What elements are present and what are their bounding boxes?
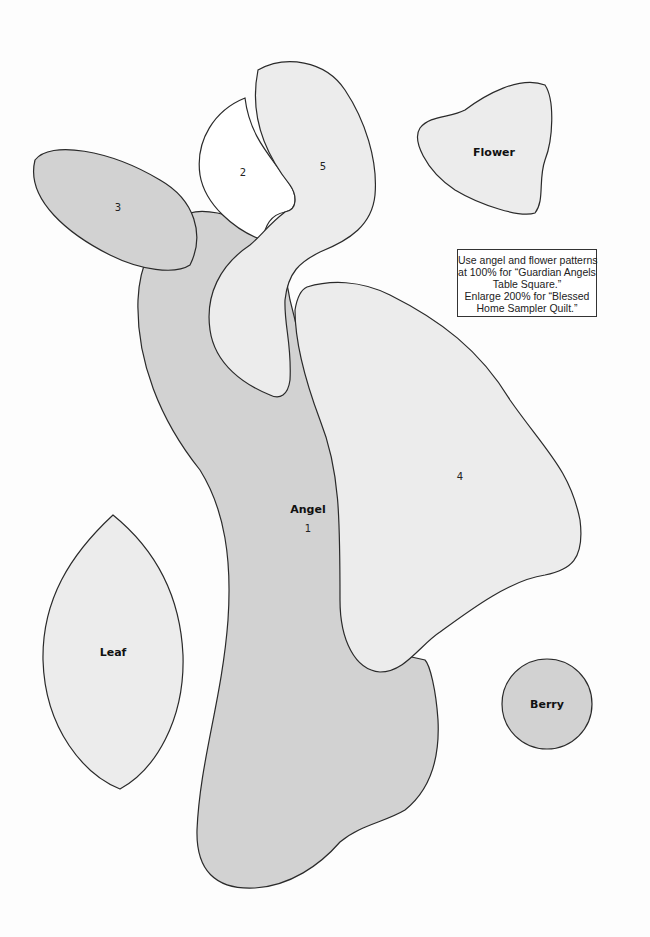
note-line: Table Square.”: [458, 278, 596, 290]
note-line: Enlarge 200% for “Blessed: [458, 290, 596, 302]
pattern-sheet: Angel 1 2 3 4 5 Flower Leaf Berry: [0, 0, 650, 937]
hair-number: 5: [320, 161, 326, 172]
flower-label: Flower: [473, 146, 515, 159]
note-line: Use angel and flower patterns: [458, 254, 596, 266]
wing-left-number: 3: [115, 202, 121, 213]
angel-number: 1: [305, 523, 311, 534]
wing-right-number: 4: [457, 471, 463, 482]
angel-label: Angel: [290, 503, 325, 516]
berry-label: Berry: [530, 698, 564, 711]
note-line: Home Sampler Quilt.”: [458, 302, 596, 314]
instructions-note: Use angel and flower patterns at 100% fo…: [457, 249, 597, 317]
note-line: at 100% for “Guardian Angels: [458, 266, 596, 278]
leaf-label: Leaf: [100, 646, 127, 659]
head-number: 2: [240, 167, 246, 178]
